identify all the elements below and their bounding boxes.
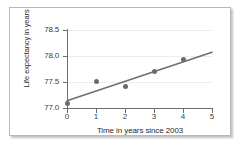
data-point	[181, 57, 186, 62]
data-point	[152, 69, 157, 74]
data-point	[123, 84, 128, 89]
chart-figure: 78.5 78.0 77.5 77.0 0 1 2 3 4 5 Life exp…	[0, 0, 245, 153]
x-axis-title: Time in years since 2003	[67, 126, 213, 135]
data-point	[65, 101, 70, 106]
chart-card: 78.5 78.0 77.5 77.0 0 1 2 3 4 5 Life exp…	[9, 7, 231, 136]
y-axis-title: Life expectancy in years	[22, 1, 31, 97]
data-point	[94, 79, 99, 84]
